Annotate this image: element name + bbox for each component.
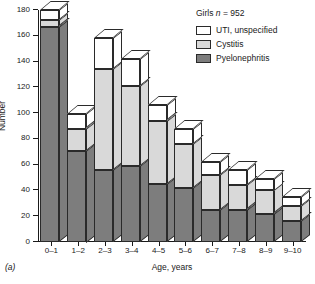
x-axis-label: 3–4	[118, 246, 145, 255]
bar-segment-uti-unspecified	[282, 197, 301, 206]
bar-segment-uti-unspecified	[148, 105, 167, 120]
y-axis-line	[38, 10, 39, 242]
bar-segment-pyelonephritis	[228, 210, 247, 242]
bar-segment-cystitis	[255, 190, 274, 213]
bar-segment-pyelonephritis	[121, 166, 140, 242]
bar-segment-uti-unspecified	[121, 59, 140, 86]
y-tick-140: 140	[33, 61, 38, 62]
bar-segment-uti-unspecified	[174, 129, 193, 144]
bar-segment-pyelonephritis	[282, 221, 301, 242]
y-tick-label-40: 40	[21, 186, 30, 194]
legend-swatch-cystitis	[196, 40, 211, 49]
y-tick-60: 60	[33, 164, 38, 165]
y-tick-label-120: 120	[17, 83, 30, 91]
bar-segment-uti-unspecified	[40, 10, 59, 20]
y-tick-100: 100	[33, 112, 38, 113]
y-tick-label-180: 180	[17, 6, 30, 14]
x-axis-label: 9–10	[279, 246, 306, 255]
bar-segment-cystitis	[94, 69, 113, 170]
x-axis-label: 0–1	[38, 246, 65, 255]
bar-segment-pyelonephritis	[67, 151, 86, 243]
legend-label: UTI, unspecified	[216, 25, 277, 35]
bar-segment-cystitis	[40, 20, 59, 26]
bar-segment-pyelonephritis	[40, 27, 59, 242]
bar-segment-uti-unspecified	[228, 170, 247, 185]
y-tick-0: 0	[33, 241, 38, 242]
y-tick-label-100: 100	[17, 109, 30, 117]
bar-segment-cystitis	[201, 175, 220, 210]
x-axis-title: Age, years	[38, 262, 306, 272]
bar-segment-uti-unspecified	[94, 38, 113, 69]
bar-segment-pyelonephritis	[148, 184, 167, 242]
legend-item-cystitis[interactable]: Cystitis	[196, 39, 311, 49]
legend-swatch-uti-unspecified	[196, 26, 211, 35]
x-axis-label: 8–9	[252, 246, 279, 255]
y-tick-label-0: 0	[26, 238, 30, 246]
legend-label: Pyelonephritis	[216, 53, 269, 63]
bar-segment-pyelonephritis	[94, 170, 113, 242]
legend-items: UTI, unspecifiedCystitisPyelonephritis	[196, 25, 311, 63]
y-tick-20: 20	[33, 215, 38, 216]
bar-segment-cystitis	[282, 206, 301, 221]
y-tick-80: 80	[33, 138, 38, 139]
x-axis-label: 7–8	[226, 246, 253, 255]
x-axis-label: 6–7	[199, 246, 226, 255]
bar-segment-cystitis	[121, 86, 140, 166]
y-tick-label-20: 20	[21, 212, 30, 220]
bar-segment-uti-unspecified	[255, 179, 274, 191]
panel-label: (a)	[5, 262, 15, 272]
y-tick-180: 180	[33, 9, 38, 10]
y-tick-120: 120	[33, 86, 38, 87]
bar-segment-pyelonephritis	[174, 188, 193, 242]
y-tick-label-60: 60	[21, 160, 30, 168]
legend-item-pyelonephritis[interactable]: Pyelonephritis	[196, 53, 311, 63]
legend: Girls n = 952 UTI, unspecifiedCystitisPy…	[196, 8, 311, 67]
y-tick-label-140: 140	[17, 57, 30, 65]
bar-segment-cystitis	[148, 121, 167, 184]
y-tick-label-160: 160	[17, 31, 30, 39]
bar-segment-pyelonephritis	[255, 214, 274, 242]
y-tick-label-80: 80	[21, 134, 30, 142]
legend-item-uti-unspecified[interactable]: UTI, unspecified	[196, 25, 311, 35]
y-tick-40: 40	[33, 189, 38, 190]
x-axis-label: 1–2	[65, 246, 92, 255]
figure-panel-a: 020406080100120140160180 0–11–22–33–44–5…	[0, 0, 315, 284]
legend-label: Cystitis	[216, 39, 243, 49]
bar-segment-pyelonephritis	[201, 210, 220, 242]
legend-swatch-pyelonephritis	[196, 54, 211, 63]
y-axis-title: Number	[0, 101, 7, 131]
bar-segment-uti-unspecified	[67, 114, 86, 128]
bar-segment-cystitis	[174, 144, 193, 188]
bar-segment-cystitis	[67, 129, 86, 151]
y-tick-160: 160	[33, 35, 38, 36]
x-axis-label: 2–3	[92, 246, 119, 255]
bar-segment-cystitis	[228, 185, 247, 209]
legend-title: Girls n = 952	[196, 8, 311, 18]
x-axis-label: 4–5	[145, 246, 172, 255]
x-axis-label: 5–6	[172, 246, 199, 255]
bar-segment-uti-unspecified	[201, 162, 220, 175]
